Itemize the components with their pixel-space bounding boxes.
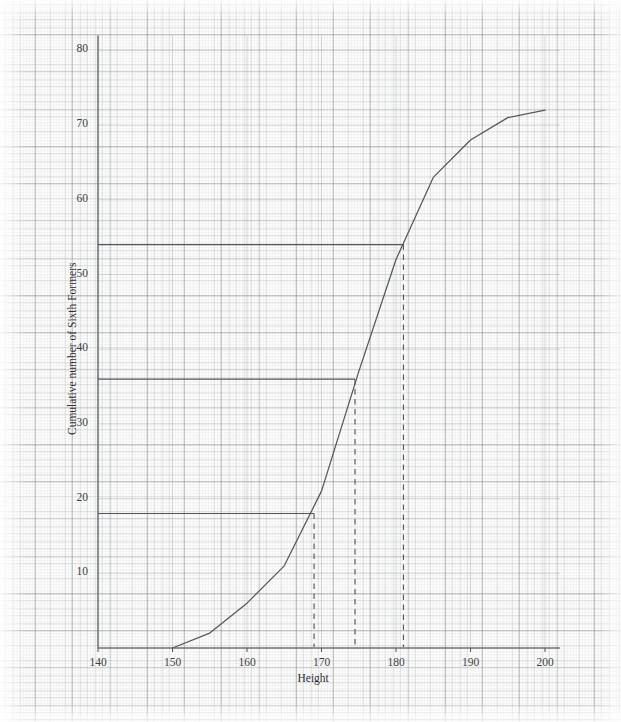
x-tick-label: 150 — [153, 656, 193, 668]
y-tick-label: 10 — [60, 565, 88, 577]
x-tick-label: 160 — [227, 656, 267, 668]
y-tick-label: 60 — [60, 192, 88, 204]
x-tick-label: 190 — [451, 656, 491, 668]
y-tick-label: 70 — [60, 117, 88, 129]
y-tick-label: 20 — [60, 491, 88, 503]
x-tick-label: 140 — [78, 656, 118, 668]
x-tick-label: 200 — [525, 656, 565, 668]
x-tick-label: 170 — [302, 656, 342, 668]
y-tick-label: 80 — [60, 42, 88, 54]
y-axis-title: Cumulative number of Sixth Formers — [66, 263, 78, 435]
x-axis-title: Height — [298, 672, 329, 684]
figure-page: 1020304050607080140150160170180190200 He… — [0, 0, 621, 722]
x-tick-label: 180 — [376, 656, 416, 668]
cumulative-frequency-plot — [0, 0, 621, 722]
